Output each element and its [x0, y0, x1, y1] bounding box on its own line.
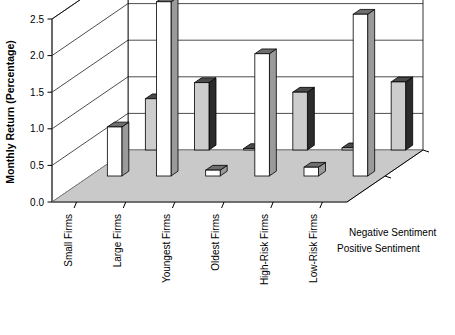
bar-negative-1	[195, 78, 217, 150]
y-tick-labels: 0.00.51.01.52.02.5	[30, 14, 44, 208]
x-tick-mark	[123, 202, 126, 208]
bar-negative-3	[293, 87, 315, 150]
bar-side-face	[406, 77, 413, 150]
category-label-4: High-Risk Firms	[259, 214, 270, 285]
bar-side-face	[269, 49, 276, 176]
x-tick-mark	[222, 202, 225, 208]
bar-front-face	[107, 127, 122, 176]
legend-label-1: Positive Sentiment	[337, 243, 420, 254]
bar-front-face	[391, 82, 406, 150]
bar-side-face	[122, 122, 129, 176]
bar-front-face	[195, 83, 210, 150]
chart-container: Monthly Return (Percentage) 0.00.51.01.5…	[0, 0, 455, 335]
bar-front-face	[304, 167, 319, 176]
bar-side-face	[209, 78, 216, 150]
x-tick-mark	[172, 202, 175, 208]
chart-legend: Negative SentimentPositive Sentiment	[337, 227, 436, 254]
depth-tick-mark	[423, 150, 429, 152]
bar-positive-1	[157, 0, 179, 176]
bar-positive-3	[255, 49, 277, 176]
bar-front-face	[293, 92, 308, 150]
y-axis-title: Monthly Return (Percentage)	[4, 40, 16, 184]
x-tick-mark	[271, 202, 274, 208]
category-label-2: Youngest Firms	[161, 214, 172, 283]
bar-side-face	[307, 87, 314, 150]
bar-negative-5	[391, 77, 413, 150]
y-tick-label: 1.0	[30, 123, 44, 134]
y-tick-label: 0.5	[30, 160, 44, 171]
bar-front-face	[255, 54, 269, 176]
bar-front-face	[206, 170, 221, 176]
x-tick-mark	[74, 202, 77, 208]
y-tick-label: 1.5	[30, 87, 44, 98]
depth-tick-mark	[385, 176, 391, 178]
category-labels: Small FirmsLarge FirmsYoungest FirmsOlde…	[63, 214, 320, 285]
bar-chart-3d: Monthly Return (Percentage) 0.00.51.01.5…	[0, 0, 455, 335]
x-tick-mark	[320, 202, 323, 208]
category-label-3: Oldest Firms	[210, 214, 221, 271]
bar-front-face	[353, 14, 368, 176]
category-label-0: Small Firms	[63, 214, 74, 267]
category-label-5: Low-Risk Firms	[308, 214, 319, 283]
y-tick-label: 2.5	[30, 14, 44, 25]
bar-side-face	[171, 0, 178, 176]
bar-positive-5	[353, 9, 375, 176]
category-label-1: Large Firms	[112, 214, 123, 267]
y-tick-label: 0.0	[30, 197, 44, 208]
bar-positive-0	[107, 122, 128, 176]
bar-side-face	[368, 9, 375, 176]
y-tick-label: 2.0	[30, 50, 44, 61]
bar-front-face	[157, 2, 172, 176]
legend-label-0: Negative Sentiment	[349, 227, 436, 238]
